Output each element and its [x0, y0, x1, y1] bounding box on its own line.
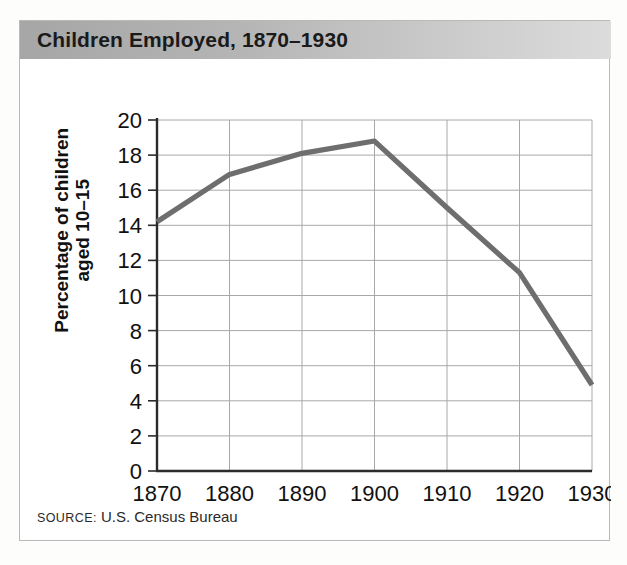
y-axis-tick-label: 10 [118, 284, 142, 309]
x-axis-tick-label: 1890 [278, 481, 327, 502]
y-axis-tick-label: 12 [118, 248, 142, 273]
y-axis-tick-label: 2 [130, 424, 142, 449]
x-axis-tick-labels: 1870188018901900191019201930 [133, 481, 611, 502]
x-axis-tick-label: 1900 [350, 481, 399, 502]
source-text: U.S. Census Bureau [97, 508, 238, 525]
chart-title-band: Children Employed, 1870–1930 [20, 21, 611, 59]
y-axis-tick-label: 18 [118, 143, 142, 168]
y-axis-tick-label: 6 [130, 354, 142, 379]
page-title: Children Employed, 1870–1930 [37, 28, 348, 52]
x-axis-tick-label: 1880 [205, 481, 254, 502]
figure-card: Children Employed, 1870–1930 Percentage … [19, 20, 610, 541]
source-label: SOURCE: [37, 511, 97, 525]
chart-plot-container: Percentage of children aged 10–15 024681… [20, 59, 611, 502]
line-chart: 02468101214161820 1870188018901900191019… [20, 59, 611, 502]
x-axis-tick-label: 1870 [133, 481, 182, 502]
y-axis-ticks [148, 120, 157, 471]
y-axis-tick-labels: 02468101214161820 [118, 108, 142, 484]
y-axis-tick-label: 4 [130, 389, 142, 414]
y-axis-tick-label: 16 [118, 178, 142, 203]
source-note: SOURCE: U.S. Census Bureau [37, 508, 238, 525]
y-axis-tick-label: 14 [118, 213, 142, 238]
x-axis-tick-label: 1910 [423, 481, 472, 502]
y-axis-tick-label: 20 [118, 108, 142, 133]
y-axis-tick-label: 8 [130, 319, 142, 344]
x-axis-tick-label: 1920 [495, 481, 544, 502]
x-axis-tick-label: 1930 [568, 481, 611, 502]
